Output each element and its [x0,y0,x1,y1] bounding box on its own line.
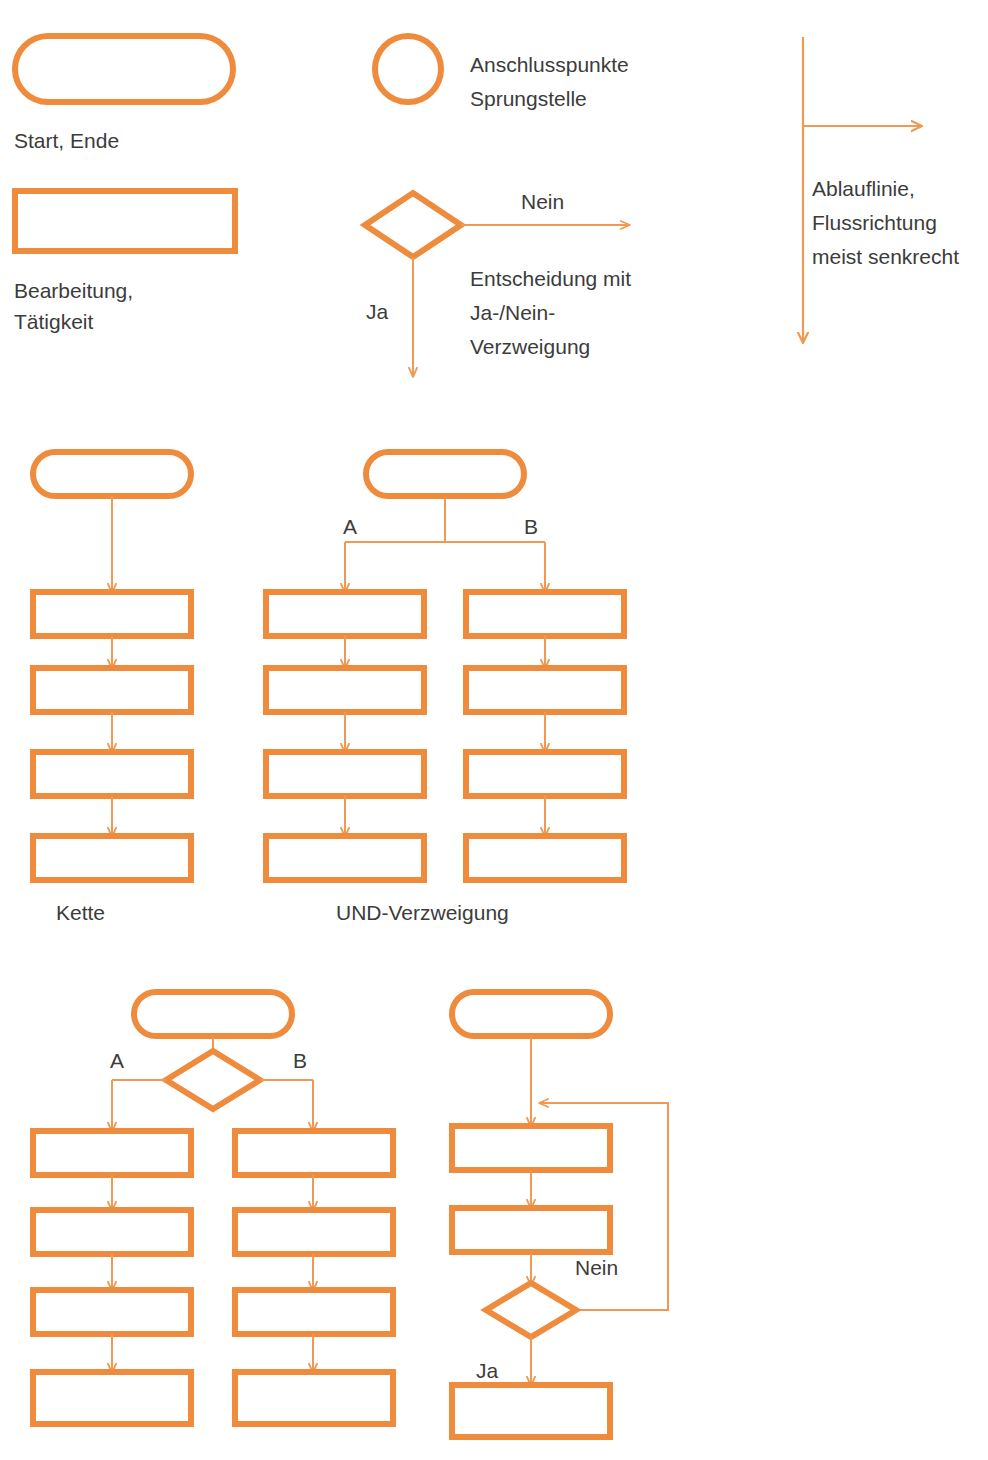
chain-caption: Kette [56,901,105,924]
legend-flowline: Ablauflinie, Flussrichtung meist senkrec… [803,37,959,342]
loop-yes-label: Ja [476,1359,499,1382]
or-branch-a-process-2 [33,1210,191,1254]
and-branch-a-process-2 [266,668,424,712]
loop-process-2 [452,1208,610,1252]
legend-connector: Anschlusspunkte Sprungstelle [375,36,629,110]
and-branch-b-process-2 [466,668,624,712]
process-rectangle-icon [15,191,235,251]
or-branch-a-process-4 [33,1372,191,1424]
legend-decision-no-label: Nein [521,190,564,213]
loop-no-label: Nein [575,1256,618,1279]
decision-diamond-icon [365,193,461,257]
diagram-sheet: Start, Ende Bearbeitung, Tätigkeit Ansch… [0,0,988,1460]
and-branch-b-process-1 [466,592,624,636]
legend-process-label-line1: Bearbeitung, [14,279,133,302]
structure-or-branch: A B [33,992,393,1424]
legend-connector-label-line1: Anschlusspunkte [470,53,629,76]
and-branch-label-a: A [343,515,357,538]
structure-and-branch: A B UND-Verzweigung [266,452,624,924]
legend-flowline-label-line1: Ablauflinie, [812,177,915,200]
structure-loop: Nein Ja [452,992,668,1437]
or-branch-label-a: A [110,1049,124,1072]
or-branch-decision-diamond [166,1051,260,1109]
and-branch-caption: UND-Verzweigung [336,901,509,924]
legend-decision-label-line2: Ja-/Nein- [470,301,555,324]
chain-process-3 [33,752,191,796]
legend-flowline-label-line2: Flussrichtung [812,211,937,234]
and-branch-label-b: B [524,515,538,538]
or-branch-b-process-3 [235,1290,393,1334]
legend-start-end: Start, Ende [14,36,233,152]
chain-process-2 [33,668,191,712]
and-branch-a-process-1 [266,592,424,636]
chain-start-symbol [33,452,191,496]
loop-process-1 [452,1126,610,1170]
start-end-rounded-rectangle-icon [15,36,233,102]
legend-decision: Nein Ja Entscheidung mit Ja-/Nein- Verzw… [365,190,631,376]
or-branch-b-process-1 [235,1131,393,1175]
or-branch-a-process-3 [33,1290,191,1334]
and-branch-b-process-3 [466,752,624,796]
or-branch-b-process-2 [235,1210,393,1254]
legend-decision-label-line3: Verzweigung [470,335,590,358]
legend-decision-label-line1: Entscheidung mit [470,267,631,290]
and-branch-b-process-4 [466,836,624,880]
legend-process-label-line2: Tätigkeit [14,310,94,333]
or-branch-start-symbol [134,992,292,1036]
connector-circle-icon [375,36,441,102]
structure-chain: Kette [33,452,191,924]
chain-process-4 [33,836,191,880]
and-branch-a-process-3 [266,752,424,796]
and-branch-a-process-4 [266,836,424,880]
loop-decision-diamond [486,1283,576,1337]
or-branch-a-process-1 [33,1131,191,1175]
legend-flowline-label-line3: meist senkrecht [812,245,959,268]
flowchart-symbols-diagram: Start, Ende Bearbeitung, Tätigkeit Ansch… [0,0,988,1460]
or-branch-b-process-4 [235,1372,393,1424]
legend-decision-yes-label: Ja [366,300,389,323]
chain-process-1 [33,592,191,636]
and-branch-start-symbol [366,452,524,496]
loop-final-process [452,1385,610,1437]
or-branch-label-b: B [293,1049,307,1072]
legend-start-end-label: Start, Ende [14,129,119,152]
loop-start-symbol [452,992,610,1036]
legend-connector-label-line2: Sprungstelle [470,87,587,110]
legend-process: Bearbeitung, Tätigkeit [14,191,235,333]
